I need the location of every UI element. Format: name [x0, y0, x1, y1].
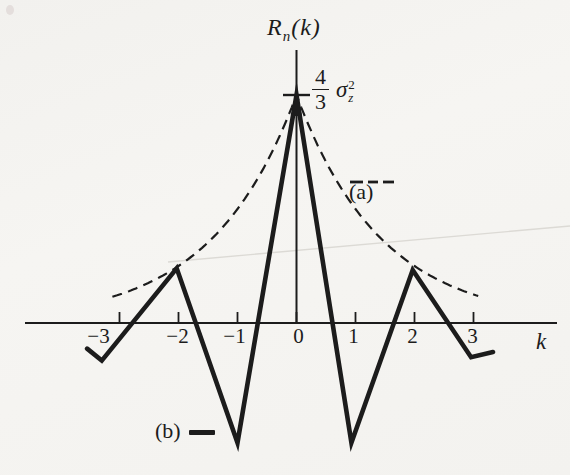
curve-a-dashed-path [112, 95, 478, 297]
legend-item-b: (b) [155, 418, 215, 444]
legend-item-a: (a) [349, 179, 373, 205]
tick-label: −2 [166, 326, 188, 347]
sigma-sup-sub: 2 z [348, 78, 355, 104]
tick-label: 3 [467, 326, 478, 347]
solid-line-sample-icon [189, 430, 215, 435]
sigma-symbol: σ [336, 77, 347, 103]
peak-value-label: 4 3 σ 2 z [312, 66, 355, 113]
chart-title: Rn(k) [267, 14, 321, 45]
fraction-numerator: 4 [312, 66, 329, 89]
title-argument: (k) [291, 14, 321, 40]
tick-label: −1 [223, 326, 245, 347]
figure-page: Rn(k) 4 3 σ 2 z (a) (b) k −3−2−10123 [0, 0, 570, 475]
peak-fraction: 4 3 [312, 66, 329, 113]
scan-artifact-line [168, 226, 570, 262]
title-function-symbol: R [267, 14, 283, 40]
curve-b-solid-path [87, 95, 493, 443]
tick-label: 0 [293, 326, 304, 347]
x-axis-label: k [536, 329, 546, 355]
title-subscript: n [283, 28, 292, 44]
tick-label: 1 [348, 326, 359, 347]
tick-label: 2 [407, 326, 418, 347]
sigma-subscript: z [348, 91, 355, 104]
legend-b-label: (b) [155, 418, 181, 444]
autocorrelation-plot-canvas [0, 0, 570, 475]
tick-label: −3 [87, 326, 109, 347]
fraction-denominator: 3 [312, 89, 329, 113]
sigma-term: σ 2 z [336, 77, 355, 103]
dashed-line-sample-icon [349, 179, 395, 185]
